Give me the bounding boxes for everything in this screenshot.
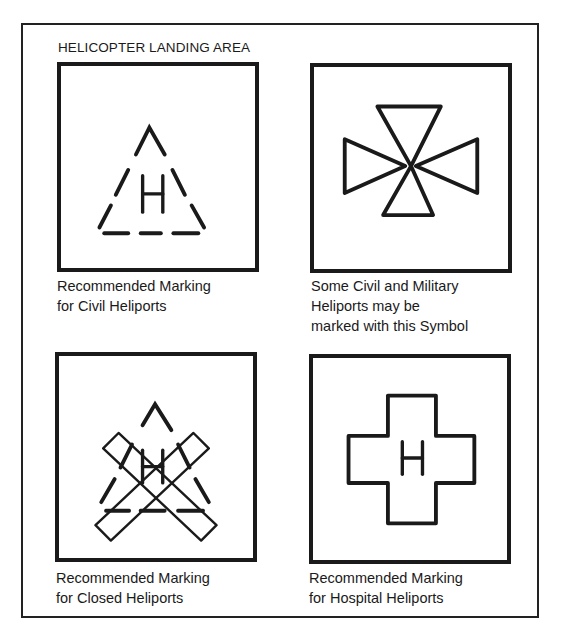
panel-military-heliport [310, 63, 512, 273]
caption-military-heliport: Some Civil and Military Heliports may be… [311, 276, 468, 336]
dashed-triangle-h-icon [61, 66, 255, 268]
panel-closed-heliport [55, 352, 257, 562]
hospital-cross-h-icon [313, 358, 507, 560]
caption-civil-heliport: Recommended Marking for Civil Heliports [57, 276, 211, 316]
caption-hospital-heliport: Recommended Marking for Hospital Helipor… [309, 568, 463, 608]
maltese-cross-icon [314, 67, 508, 269]
panel-civil-heliport [57, 62, 259, 272]
closed-heliport-x-icon [59, 356, 253, 558]
panel-hospital-heliport [309, 354, 511, 564]
diagram-title: HELICOPTER LANDING AREA [58, 40, 250, 55]
caption-closed-heliport: Recommended Marking for Closed Heliports [56, 568, 210, 608]
